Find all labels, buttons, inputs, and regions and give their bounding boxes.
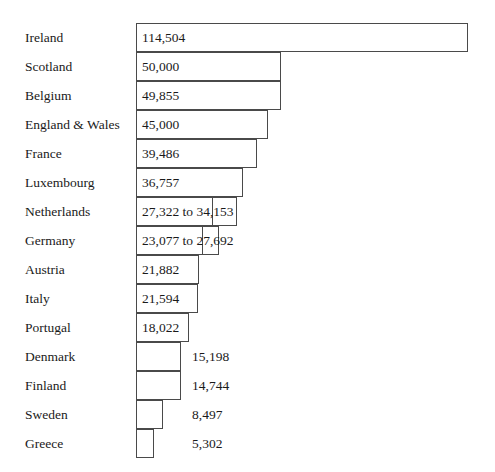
value-label: 18,022 bbox=[142, 321, 179, 335]
chart-row: France39,486 bbox=[0, 139, 495, 168]
chart-row: England & Wales45,000 bbox=[0, 110, 495, 139]
chart-row: Luxembourg36,757 bbox=[0, 168, 495, 197]
value-label: 14,744 bbox=[192, 379, 229, 393]
value-label: 21,594 bbox=[142, 292, 179, 306]
chart-row: Ireland114,504 bbox=[0, 23, 495, 52]
category-label: Belgium bbox=[25, 89, 72, 103]
bar bbox=[136, 23, 468, 52]
category-label: Luxembourg bbox=[25, 176, 95, 190]
category-label: Germany bbox=[25, 234, 75, 248]
category-label: England & Wales bbox=[25, 118, 120, 132]
value-label: 50,000 bbox=[142, 60, 179, 74]
value-label: 49,855 bbox=[142, 89, 179, 103]
chart-row: Italy21,594 bbox=[0, 284, 495, 313]
value-label: 45,000 bbox=[142, 118, 179, 132]
category-label: Greece bbox=[25, 437, 63, 451]
category-label: Italy bbox=[25, 292, 50, 306]
value-label: 15,198 bbox=[192, 350, 229, 364]
category-label: Scotland bbox=[25, 60, 72, 74]
bar bbox=[136, 400, 163, 429]
chart-row: Scotland50,000 bbox=[0, 52, 495, 81]
value-label: 8,497 bbox=[192, 408, 222, 422]
horizontal-bar-chart: Ireland114,504Scotland50,000Belgium49,85… bbox=[0, 0, 495, 472]
chart-row: Sweden8,497 bbox=[0, 400, 495, 429]
value-label: 36,757 bbox=[142, 176, 179, 190]
chart-row: Denmark15,198 bbox=[0, 342, 495, 371]
value-label: 23,077 to 27,692 bbox=[142, 234, 234, 248]
bar bbox=[136, 342, 181, 371]
category-label: Netherlands bbox=[25, 205, 90, 219]
value-label: 5,302 bbox=[192, 437, 222, 451]
chart-row: Belgium49,855 bbox=[0, 81, 495, 110]
chart-row: Austria21,882 bbox=[0, 255, 495, 284]
chart-row: Germany23,077 to 27,692 bbox=[0, 226, 495, 255]
category-label: France bbox=[25, 147, 62, 161]
category-label: Ireland bbox=[25, 31, 63, 45]
value-label: 27,322 to 34,153 bbox=[142, 205, 234, 219]
bar bbox=[136, 371, 181, 400]
category-label: Finland bbox=[25, 379, 66, 393]
category-label: Denmark bbox=[25, 350, 75, 364]
value-label: 114,504 bbox=[142, 31, 185, 45]
category-label: Portugal bbox=[25, 321, 71, 335]
category-label: Austria bbox=[25, 263, 65, 277]
chart-row: Netherlands27,322 to 34,153 bbox=[0, 197, 495, 226]
category-label: Sweden bbox=[25, 408, 68, 422]
chart-row: Portugal18,022 bbox=[0, 313, 495, 342]
chart-row: Finland14,744 bbox=[0, 371, 495, 400]
value-label: 21,882 bbox=[142, 263, 179, 277]
bar bbox=[136, 429, 154, 458]
chart-row: Greece5,302 bbox=[0, 429, 495, 458]
value-label: 39,486 bbox=[142, 147, 179, 161]
